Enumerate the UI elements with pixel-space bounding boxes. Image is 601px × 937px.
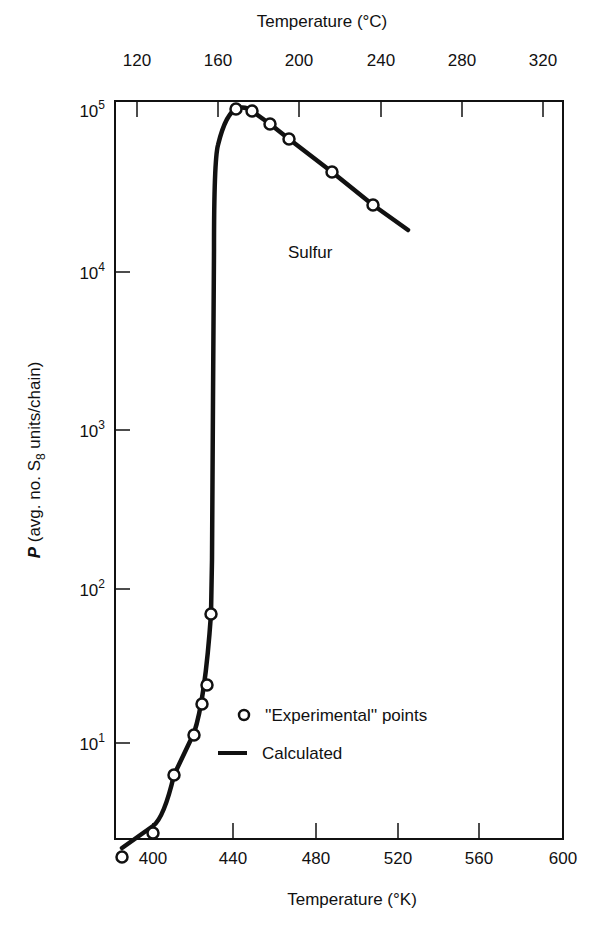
y-tick-label-1e2: 102 bbox=[79, 577, 105, 600]
data-point bbox=[169, 770, 180, 781]
bottom-tick-label: 480 bbox=[302, 849, 330, 868]
y-tick-label-1e1: 101 bbox=[79, 731, 105, 754]
bottom-tick-label: 600 bbox=[549, 849, 577, 868]
data-point bbox=[117, 852, 128, 863]
y-tick-label-1e3: 103 bbox=[79, 418, 105, 441]
calculated-curve bbox=[122, 107, 408, 848]
sulfur-annotation: Sulfur bbox=[288, 243, 333, 262]
data-point bbox=[368, 200, 379, 211]
bottom-tick-label: 560 bbox=[465, 849, 493, 868]
top-tick-label: 240 bbox=[367, 51, 395, 70]
bottom-tick-label: 520 bbox=[384, 849, 412, 868]
legend-point-marker-icon bbox=[239, 710, 249, 720]
chart-canvas: Temperature (°C) 120 160 200 240 280 320… bbox=[0, 0, 601, 937]
left-axis-tick-labels: 105 104 103 102 101 bbox=[79, 98, 105, 754]
top-tick-label: 280 bbox=[448, 51, 476, 70]
legend-experimental-label: ''Experimental'' points bbox=[265, 706, 427, 725]
top-tick-label: 120 bbox=[123, 51, 151, 70]
top-axis-title: Temperature (°C) bbox=[257, 12, 388, 31]
data-point bbox=[206, 609, 217, 620]
plot-frame bbox=[115, 101, 563, 839]
bottom-axis-tick-labels: 400 440 480 520 560 600 bbox=[139, 849, 577, 868]
y-tick-label-1e5: 105 bbox=[79, 98, 105, 121]
data-point bbox=[197, 699, 208, 710]
data-point bbox=[265, 119, 276, 130]
legend-calculated-label: Calculated bbox=[262, 744, 342, 763]
bottom-axis-ticks bbox=[153, 823, 479, 839]
left-axis-ticks bbox=[115, 272, 130, 743]
y-axis-title: P (avg. no. S8 units/chain) bbox=[25, 362, 48, 559]
data-point bbox=[189, 730, 200, 741]
bottom-tick-label: 400 bbox=[139, 849, 167, 868]
top-tick-label: 200 bbox=[285, 51, 313, 70]
legend: ''Experimental'' points Calculated bbox=[218, 706, 427, 763]
data-point bbox=[327, 167, 338, 178]
data-point bbox=[202, 680, 213, 691]
y-tick-label-1e4: 104 bbox=[79, 260, 105, 283]
data-point bbox=[247, 106, 258, 117]
bottom-axis-title: Temperature (°K) bbox=[287, 890, 417, 909]
top-tick-label: 320 bbox=[529, 51, 557, 70]
top-axis-ticks bbox=[137, 101, 543, 117]
data-point bbox=[148, 828, 159, 839]
top-tick-label: 160 bbox=[204, 51, 232, 70]
data-point bbox=[284, 134, 295, 145]
data-point bbox=[231, 104, 242, 115]
bottom-tick-label: 440 bbox=[219, 849, 247, 868]
top-axis-tick-labels: 120 160 200 240 280 320 bbox=[123, 51, 557, 70]
